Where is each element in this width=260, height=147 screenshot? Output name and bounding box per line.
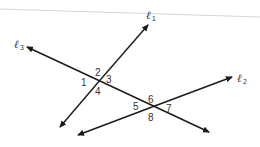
angle-3: 3 [106, 74, 112, 85]
angle-7: 7 [166, 103, 172, 114]
label-l3: ℓ 3 [14, 38, 24, 51]
angle-6: 6 [148, 94, 154, 105]
label-l1: ℓ 1 [146, 9, 156, 22]
angle-8: 8 [148, 112, 154, 123]
angle-1: 1 [81, 77, 87, 88]
angle-4: 4 [95, 86, 101, 97]
label-l2: ℓ 2 [237, 72, 247, 85]
svg-text:2: 2 [243, 78, 247, 85]
svg-text:ℓ: ℓ [146, 9, 151, 22]
transversal-diagram: ℓ 1 ℓ 2 ℓ 3 1 2 3 4 5 6 7 8 [0, 0, 260, 147]
angle-5: 5 [133, 101, 139, 112]
svg-text:ℓ: ℓ [14, 38, 19, 51]
svg-text:1: 1 [152, 15, 156, 22]
svg-text:3: 3 [20, 44, 24, 51]
top-rule [0, 9, 260, 17]
svg-text:ℓ: ℓ [237, 72, 242, 85]
angle-2: 2 [95, 67, 101, 78]
line-l2 [78, 77, 232, 135]
